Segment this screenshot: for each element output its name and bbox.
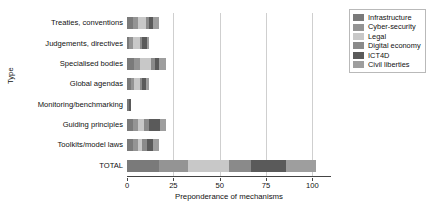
stacked-bar[interactable] bbox=[127, 119, 166, 131]
bar-segment[interactable] bbox=[153, 17, 159, 29]
x-tick-label: 75 bbox=[262, 181, 270, 190]
x-tick-label: 25 bbox=[169, 181, 177, 190]
bar-row bbox=[127, 74, 331, 94]
stacked-bar[interactable] bbox=[127, 37, 149, 49]
legend-swatch-icon bbox=[353, 52, 364, 59]
bar-row bbox=[127, 135, 331, 155]
legend-label: Legal bbox=[368, 32, 386, 41]
bar-row bbox=[127, 54, 331, 74]
legend-label: Digital economy bbox=[368, 41, 421, 50]
legend-item[interactable]: Legal bbox=[353, 32, 421, 41]
bar-segment[interactable] bbox=[149, 119, 160, 131]
legend-swatch-icon bbox=[353, 14, 364, 21]
stacked-bar[interactable] bbox=[127, 160, 316, 172]
x-axis-title: Preponderance of mechanisms bbox=[127, 192, 331, 201]
bar-row bbox=[127, 156, 331, 176]
stacked-bar-chart: Type Treaties, conventionsJudgements, di… bbox=[0, 0, 448, 212]
legend-label: Infrastructure bbox=[368, 13, 412, 22]
stacked-bar[interactable] bbox=[127, 17, 159, 29]
bar-segment[interactable] bbox=[147, 37, 149, 49]
legend-swatch-icon bbox=[353, 33, 364, 40]
bar-segment[interactable] bbox=[160, 119, 166, 131]
stacked-bar[interactable] bbox=[127, 78, 149, 90]
legend-item[interactable]: Infrastructure bbox=[353, 13, 421, 22]
bar-segment[interactable] bbox=[140, 58, 151, 70]
x-axis-ticks: 0255075100 bbox=[127, 178, 331, 192]
stacked-bar[interactable] bbox=[127, 99, 131, 111]
legend-item[interactable]: Digital economy bbox=[353, 41, 421, 50]
y-tick-label: TOTAL bbox=[7, 161, 123, 171]
bar-segment[interactable] bbox=[251, 160, 286, 172]
bar-segment[interactable] bbox=[133, 37, 140, 49]
bar-segment[interactable] bbox=[286, 160, 316, 172]
x-tick-label: 50 bbox=[215, 181, 223, 190]
y-tick-label: Toolkits/model laws bbox=[7, 140, 123, 150]
bar-segment[interactable] bbox=[138, 17, 145, 29]
bar-segment[interactable] bbox=[188, 160, 229, 172]
legend-label: Cyber-security bbox=[368, 22, 416, 31]
stacked-bar[interactable] bbox=[127, 58, 166, 70]
y-tick-label: Guiding principles bbox=[7, 120, 123, 130]
bar-row bbox=[127, 33, 331, 53]
bar-segment[interactable] bbox=[229, 160, 251, 172]
legend-swatch-icon bbox=[353, 42, 364, 49]
bar-segment[interactable] bbox=[153, 139, 159, 151]
bar-segment[interactable] bbox=[146, 78, 150, 90]
x-tick-label: 0 bbox=[125, 181, 129, 190]
x-tick-label: 100 bbox=[306, 181, 319, 190]
y-tick-label: Global agendas bbox=[7, 79, 123, 89]
stacked-bar[interactable] bbox=[127, 139, 159, 151]
y-tick-label: Monitoring/benchmarking bbox=[7, 100, 123, 110]
y-axis-tick-labels: Treaties, conventionsJudgements, directi… bbox=[5, 13, 123, 176]
y-tick-label: Specialised bodies bbox=[7, 59, 123, 69]
y-tick-label: Judgements, directives bbox=[7, 39, 123, 49]
chart-legend: InfrastructureCyber-securityLegalDigital… bbox=[349, 9, 426, 73]
y-tick-label: Treaties, conventions bbox=[7, 18, 123, 28]
bar-segment[interactable] bbox=[127, 58, 134, 70]
bar-segment[interactable] bbox=[159, 58, 166, 70]
legend-item[interactable]: ICT4D bbox=[353, 51, 421, 60]
bar-row bbox=[127, 95, 331, 115]
x-axis-line bbox=[127, 176, 331, 177]
legend-item[interactable]: Civil liberties bbox=[353, 60, 421, 69]
legend-label: ICT4D bbox=[368, 51, 389, 60]
legend-item[interactable]: Cyber-security bbox=[353, 22, 421, 31]
bar-segment[interactable] bbox=[129, 99, 131, 111]
bar-row bbox=[127, 13, 331, 33]
plot-area bbox=[127, 13, 331, 176]
legend-label: Civil liberties bbox=[368, 60, 409, 69]
legend-swatch-icon bbox=[353, 61, 364, 68]
bar-segment[interactable] bbox=[159, 160, 189, 172]
legend-swatch-icon bbox=[353, 24, 364, 31]
bar-row bbox=[127, 115, 331, 135]
bar-segment[interactable] bbox=[127, 160, 159, 172]
